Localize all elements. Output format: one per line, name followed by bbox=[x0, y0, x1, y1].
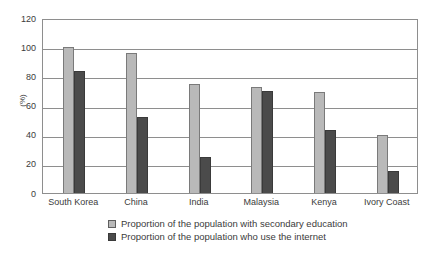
bar bbox=[126, 53, 137, 193]
bar bbox=[137, 117, 148, 193]
bar-group bbox=[168, 20, 231, 193]
bars-layer bbox=[43, 20, 417, 193]
x-tick-label: Ivory Coast bbox=[355, 197, 418, 208]
bar-pair bbox=[63, 20, 85, 193]
bar bbox=[314, 92, 325, 193]
legend-label: Proportion of the population who use the… bbox=[121, 232, 326, 242]
bar-chart: (%) 020406080100120 South KoreaChinaIndi… bbox=[0, 0, 434, 265]
plot-area bbox=[42, 19, 418, 194]
bar-pair bbox=[251, 20, 273, 193]
legend-swatch-icon bbox=[108, 233, 116, 241]
bar bbox=[388, 171, 399, 193]
y-axis-tick-labels: 020406080100120 bbox=[0, 0, 40, 265]
bar-group bbox=[43, 20, 106, 193]
y-tick-label: 60 bbox=[26, 102, 36, 111]
bar bbox=[189, 84, 200, 193]
legend-label: Proportion of the population with second… bbox=[121, 219, 348, 229]
y-tick-label: 20 bbox=[26, 160, 36, 169]
legend-swatch-icon bbox=[108, 220, 116, 228]
bar bbox=[63, 47, 74, 193]
x-tick-label: India bbox=[167, 197, 230, 208]
bar-group bbox=[356, 20, 419, 193]
bar-pair bbox=[314, 20, 336, 193]
legend-item: Proportion of the population with second… bbox=[108, 219, 348, 229]
y-tick-label: 100 bbox=[21, 44, 36, 53]
bar bbox=[251, 87, 262, 193]
y-tick-label: 0 bbox=[31, 190, 36, 199]
x-tick-label: South Korea bbox=[42, 197, 105, 208]
x-tick-label: China bbox=[105, 197, 168, 208]
bar bbox=[325, 130, 336, 193]
bar bbox=[262, 91, 273, 193]
y-tick-label: 40 bbox=[26, 131, 36, 140]
y-tick-label: 80 bbox=[26, 73, 36, 82]
y-tick-label: 120 bbox=[21, 15, 36, 24]
bar-group bbox=[294, 20, 357, 193]
bar-pair bbox=[377, 20, 399, 193]
bar-pair bbox=[126, 20, 148, 193]
x-axis-tick-labels: South KoreaChinaIndiaMalaysiaKenyaIvory … bbox=[42, 197, 418, 213]
x-tick-label: Malaysia bbox=[230, 197, 293, 208]
bar bbox=[377, 135, 388, 193]
bar bbox=[74, 71, 85, 194]
x-tick-label: Kenya bbox=[293, 197, 356, 208]
bar-group bbox=[231, 20, 294, 193]
chart-legend: Proportion of the population with second… bbox=[108, 219, 348, 242]
bar-pair bbox=[189, 20, 211, 193]
bar bbox=[200, 157, 211, 193]
legend-item: Proportion of the population who use the… bbox=[108, 232, 348, 242]
bar-group bbox=[106, 20, 169, 193]
